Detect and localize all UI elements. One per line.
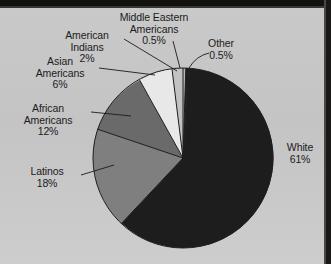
- label-line-1: African: [6, 103, 90, 115]
- label-value: 12%: [6, 126, 90, 138]
- scan-band-right-soft: [324, 0, 326, 264]
- label-value: 61%: [276, 154, 324, 166]
- label-value: 18%: [14, 178, 80, 190]
- label-asian-americans: Asian Americans 6%: [22, 56, 98, 91]
- label-value: 0.5%: [196, 50, 246, 62]
- paper-surface: Middle Eastern Americans 0.5% Other 0.5%…: [0, 8, 324, 264]
- label-line-1: American: [52, 30, 122, 42]
- label-african-americans: African Americans 12%: [6, 103, 90, 138]
- label-other: Other 0.5%: [196, 38, 246, 61]
- label-line-1: Latinos: [14, 166, 80, 178]
- label-line-1: White: [276, 142, 324, 154]
- label-white: White 61%: [276, 142, 324, 165]
- label-line-1: Middle Eastern: [108, 12, 200, 24]
- leader-line-asian-americans: [99, 68, 155, 75]
- label-line-1: Asian: [22, 56, 98, 68]
- label-latinos: Latinos 18%: [14, 166, 80, 189]
- label-line-1: Other: [196, 38, 246, 50]
- label-value: 6%: [22, 79, 98, 91]
- page-root: Middle Eastern Americans 0.5% Other 0.5%…: [0, 0, 331, 264]
- scan-band-right: [326, 0, 331, 264]
- pie-chart: Middle Eastern Americans 0.5% Other 0.5%…: [0, 8, 324, 264]
